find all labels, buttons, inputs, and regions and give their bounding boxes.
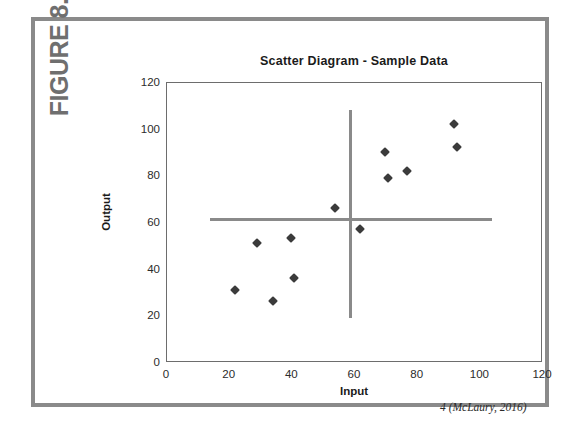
plot-area <box>166 82 542 362</box>
x-axis-label: Input <box>166 385 542 397</box>
x-axis-tick-label: 100 <box>462 368 496 380</box>
figure-page: Scatter Diagram - Sample Data 0204060801… <box>0 0 582 426</box>
x-axis-tick-label: 120 <box>525 368 559 380</box>
x-axis-tick-label: 0 <box>149 368 183 380</box>
figure-citation: 4 (McLaury, 2016) <box>440 401 527 413</box>
y-axis-tick-label: 100 <box>134 123 160 135</box>
y-axis-tick-label: 20 <box>134 309 160 321</box>
figure-number-label: FIGURE 8.12 <box>42 0 76 124</box>
y-axis-tick-label: 120 <box>134 76 160 88</box>
y-axis-tick-label: 0 <box>134 356 160 368</box>
x-axis-tick-label: 60 <box>337 368 371 380</box>
x-axis-tick-label: 40 <box>274 368 308 380</box>
x-axis-tick-label: 80 <box>400 368 434 380</box>
x-axis-tick-label: 20 <box>212 368 246 380</box>
y-axis-tick-label: 80 <box>134 169 160 181</box>
y-axis-tick-label: 40 <box>134 263 160 275</box>
figure-frame: Scatter Diagram - Sample Data 0204060801… <box>31 17 549 407</box>
y-axis-tick-label: 60 <box>134 216 160 228</box>
chart-title: Scatter Diagram - Sample Data <box>165 54 543 68</box>
y-axis-label: Output <box>100 177 112 247</box>
